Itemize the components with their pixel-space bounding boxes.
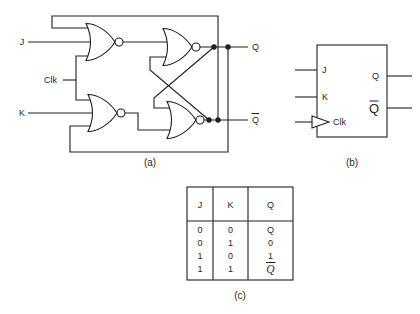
nand-gate-k-icon <box>88 95 125 132</box>
panel-a-gate-circuit: J Clk K Q Q (a) <box>19 16 259 168</box>
junction-dot-qbar-1 <box>206 117 211 122</box>
nand-gate-j-icon <box>86 24 123 61</box>
table-header-j: J <box>198 200 203 210</box>
table-row: 0 0 Q <box>197 225 274 235</box>
jk-flipflop-figure: J Clk K Q Q (a) J K Clk Q Q (b) J K Q 0 <box>0 0 420 314</box>
nand-gate-qbar-latch-icon <box>167 102 204 139</box>
cell-r4-j: 1 <box>197 264 202 274</box>
wire-kgate-to-latch <box>125 113 173 130</box>
figure-canvas: J Clk K Q Q (a) J K Clk Q Q (b) J K Q 0 <box>0 0 420 314</box>
pin-label-qbar: Q <box>369 101 379 116</box>
pin-label-clk: Clk <box>333 117 346 127</box>
table-row: 1 1 Q <box>197 263 275 276</box>
table-row: 0 1 0 <box>197 238 273 248</box>
wire-feedback-qbar-to-jgate <box>52 16 218 120</box>
cell-r2-q: 0 <box>268 238 273 248</box>
table-border <box>187 187 293 280</box>
pin-label-j: J <box>322 65 327 75</box>
cell-r2-j: 0 <box>197 238 202 248</box>
wire-clk-branch <box>76 56 94 100</box>
clock-edge-triangle-icon <box>312 116 329 128</box>
junction-dot-q-1 <box>211 44 216 49</box>
caption-a: (a) <box>144 157 156 168</box>
label-j: J <box>20 37 25 47</box>
cell-r3-k: 0 <box>228 251 233 261</box>
caption-b: (b) <box>346 157 358 168</box>
label-k: K <box>19 108 25 118</box>
table-header-q: Q <box>267 200 274 210</box>
panel-c-truth-table: J K Q 0 0 Q 0 1 0 1 0 1 1 1 Q (c) <box>187 187 293 301</box>
label-clk: Clk <box>44 75 57 85</box>
cell-r3-q: 1 <box>268 251 273 261</box>
cell-r1-j: 0 <box>197 225 202 235</box>
nand-gate-q-latch-icon <box>163 29 200 66</box>
table-row: 1 0 1 <box>197 251 273 261</box>
cell-r4-k: 1 <box>228 264 233 274</box>
pin-label-k: K <box>322 92 328 102</box>
cell-r3-j: 1 <box>197 251 202 261</box>
label-qbar-output: Q <box>252 115 259 125</box>
cell-r1-k: 0 <box>228 225 233 235</box>
caption-c: (c) <box>234 290 246 301</box>
cell-r2-k: 1 <box>228 238 233 248</box>
pin-label-q: Q <box>372 71 379 81</box>
cell-r4-q: Q <box>266 263 275 275</box>
flipflop-body <box>317 45 387 137</box>
label-q-output: Q <box>252 42 259 52</box>
junction-dot-q-2 <box>225 44 230 49</box>
cell-r1-q: Q <box>267 225 274 235</box>
junction-dot-qbar-2 <box>215 117 220 122</box>
panel-b-block-symbol: J K Clk Q Q (b) <box>295 45 412 168</box>
table-header-k: K <box>227 200 233 210</box>
